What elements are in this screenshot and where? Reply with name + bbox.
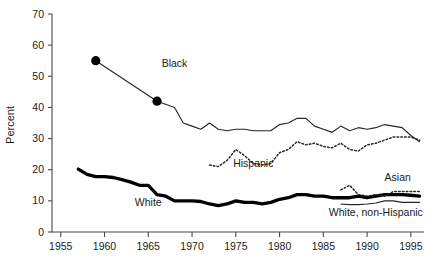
y-tick-label: 60 <box>32 39 44 51</box>
series-line-black <box>96 61 420 142</box>
x-axis-ticks: 195519601965197019751980198519901995 <box>49 232 423 252</box>
series-line-white-non-hispanic <box>341 201 420 205</box>
y-axis-title: Percent <box>4 106 16 144</box>
x-tick-label: 1975 <box>224 240 248 252</box>
line-chart: 010203040506070 195519601965197019751980… <box>0 0 436 267</box>
y-tick-label: 50 <box>32 70 44 82</box>
x-tick-label: 1985 <box>312 240 336 252</box>
data-point-marker <box>152 97 161 106</box>
y-tick-label: 10 <box>32 194 44 206</box>
x-tick-label: 1990 <box>355 240 379 252</box>
y-tick-label: 40 <box>32 101 44 113</box>
axis-lines <box>52 14 424 232</box>
x-tick-label: 1960 <box>93 240 117 252</box>
series-label-white-non-hispanic: White, non-Hispanic <box>329 206 423 218</box>
series-label-hispanic: Hispanic <box>233 157 273 169</box>
series-label-black: Black <box>162 57 188 69</box>
x-tick-label: 1965 <box>137 240 161 252</box>
data-series <box>78 61 419 206</box>
series-label-asian: Asian <box>385 171 411 183</box>
series-label-white: White <box>135 196 162 208</box>
data-point-marker <box>91 56 100 65</box>
series-line-white <box>78 169 419 205</box>
x-tick-label: 1995 <box>399 240 423 252</box>
x-tick-label: 1970 <box>180 240 204 252</box>
y-tick-label: 20 <box>32 163 44 175</box>
y-tick-label: 70 <box>32 8 44 20</box>
axes <box>52 14 424 232</box>
y-tick-label: 0 <box>38 226 44 238</box>
y-axis-ticks: 010203040506070 <box>32 8 52 238</box>
x-tick-label: 1980 <box>268 240 292 252</box>
y-tick-label: 30 <box>32 132 44 144</box>
x-tick-label: 1955 <box>49 240 73 252</box>
chart-container: 010203040506070 195519601965197019751980… <box>0 0 436 267</box>
